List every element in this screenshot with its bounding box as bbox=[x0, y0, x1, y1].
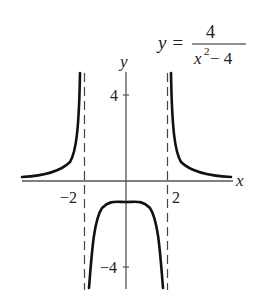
equation: y = 4 x 2 − 4 bbox=[156, 22, 246, 68]
equation-lhs: y = bbox=[156, 32, 184, 53]
equation-denominator-rest: − 4 bbox=[210, 49, 233, 68]
equation-numerator: 4 bbox=[206, 22, 215, 42]
y-tick-label-neg4: −4 bbox=[100, 259, 117, 276]
x-axis-label: x bbox=[235, 171, 244, 190]
x-tick-label-neg2: −2 bbox=[60, 189, 77, 206]
x-tick-label-2: 2 bbox=[172, 189, 180, 206]
y-axis-label: y bbox=[118, 52, 128, 71]
y-tick-label-4: 4 bbox=[110, 87, 118, 104]
equation-denominator-exp: 2 bbox=[204, 45, 210, 57]
curve-left-branch bbox=[22, 73, 80, 177]
equation-denominator-base: x bbox=[193, 49, 202, 68]
graph-canvas: y = 4 x 2 − 4 x y 4 −4 −2 2 bbox=[0, 0, 256, 292]
curve-right-branch bbox=[171, 73, 231, 177]
